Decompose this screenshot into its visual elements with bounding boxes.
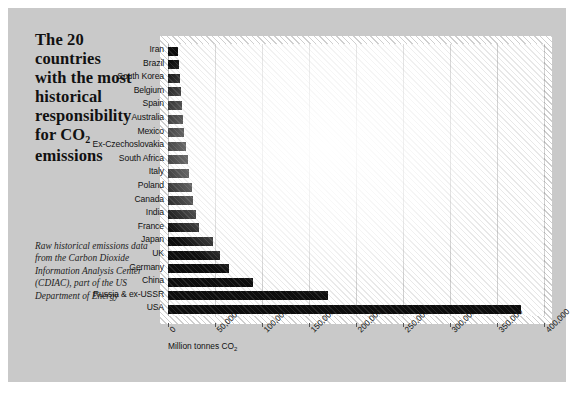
table-row: Germany — [168, 262, 544, 275]
bar-uk — [168, 251, 220, 260]
bar-label-south-africa: South Africa — [119, 153, 164, 163]
plot-frame: IranBrazilSouth KoreaBelgiumSpainAustral… — [160, 36, 552, 324]
bar-series: IranBrazilSouth KoreaBelgiumSpainAustral… — [168, 44, 544, 316]
bar-label-brazil: Brazil — [143, 58, 164, 68]
title-line-2: countries — [35, 49, 155, 68]
bar-label-germany: Germany — [129, 262, 164, 272]
title-subscript: 2 — [85, 134, 90, 145]
bar-label-italy: Italy — [149, 166, 164, 176]
table-row: Belgium — [168, 85, 544, 98]
bar-label-australia: Australia — [131, 112, 164, 122]
bar-ex-czechoslovakia — [168, 142, 186, 151]
bar-label-india: India — [146, 207, 164, 217]
bar-iran — [168, 47, 178, 56]
table-row: Iran — [168, 45, 544, 58]
table-row: Australia — [168, 113, 544, 126]
table-row: Russia & ex-USSR — [168, 289, 544, 302]
tick-label: 0 — [168, 325, 178, 335]
table-row: Japan — [168, 235, 544, 248]
table-row: Italy — [168, 167, 544, 180]
bar-china — [168, 278, 253, 287]
table-row: South Korea — [168, 72, 544, 85]
bar-label-ex-czechoslovakia: Ex-Czechoslovakia — [93, 139, 164, 149]
bar-russia-ex-ussr — [168, 291, 328, 300]
chart-card: The 20countrieswith the mosthistoricalre… — [8, 8, 566, 382]
table-row: Spain — [168, 99, 544, 112]
bar-italy — [168, 169, 189, 178]
bar-label-usa: USA — [147, 302, 164, 312]
bar-south-korea — [168, 74, 180, 83]
gridline-400,000 — [544, 44, 545, 316]
bar-label-poland: Poland — [138, 180, 164, 190]
table-row: France — [168, 221, 544, 234]
table-row: UK — [168, 249, 544, 262]
bar-france — [168, 223, 199, 232]
bar-mexico — [168, 128, 184, 137]
bar-label-belgium: Belgium — [134, 85, 164, 95]
bar-label-france: France — [138, 221, 164, 231]
plot-area: IranBrazilSouth KoreaBelgiumSpainAustral… — [168, 44, 544, 316]
bar-spain — [168, 101, 182, 110]
bar-label-south-korea: South Korea — [117, 71, 164, 81]
x-axis-ticks: 050,000100,000150,000200,000250,000300,0… — [160, 324, 552, 384]
bar-brazil — [168, 60, 179, 69]
table-row: India — [168, 208, 544, 221]
table-row: China — [168, 276, 544, 289]
bar-label-mexico: Mexico — [137, 126, 164, 136]
bar-south-africa — [168, 155, 188, 164]
bar-label-russia-ex-ussr: Russia & ex-USSR — [93, 289, 164, 299]
table-row: Poland — [168, 181, 544, 194]
bar-india — [168, 210, 196, 219]
bar-label-canada: Canada — [134, 194, 164, 204]
table-row: USA — [168, 303, 544, 316]
table-row: Canada — [168, 194, 544, 207]
bar-label-iran: Iran — [150, 44, 164, 54]
bar-belgium — [168, 87, 181, 96]
bar-australia — [168, 115, 183, 124]
table-row: South Africa — [168, 153, 544, 166]
bar-japan — [168, 237, 213, 246]
bar-label-spain: Spain — [143, 98, 164, 108]
bar-canada — [168, 196, 193, 205]
bar-label-uk: UK — [152, 248, 164, 258]
bar-label-china: China — [142, 275, 164, 285]
bar-germany — [168, 264, 229, 273]
table-row: Ex-Czechoslovakia — [168, 140, 544, 153]
table-row: Mexico — [168, 126, 544, 139]
table-row: Brazil — [168, 58, 544, 71]
bar-poland — [168, 183, 192, 192]
bar-label-japan: Japan — [141, 234, 164, 244]
title-line-1: The 20 — [35, 30, 155, 49]
